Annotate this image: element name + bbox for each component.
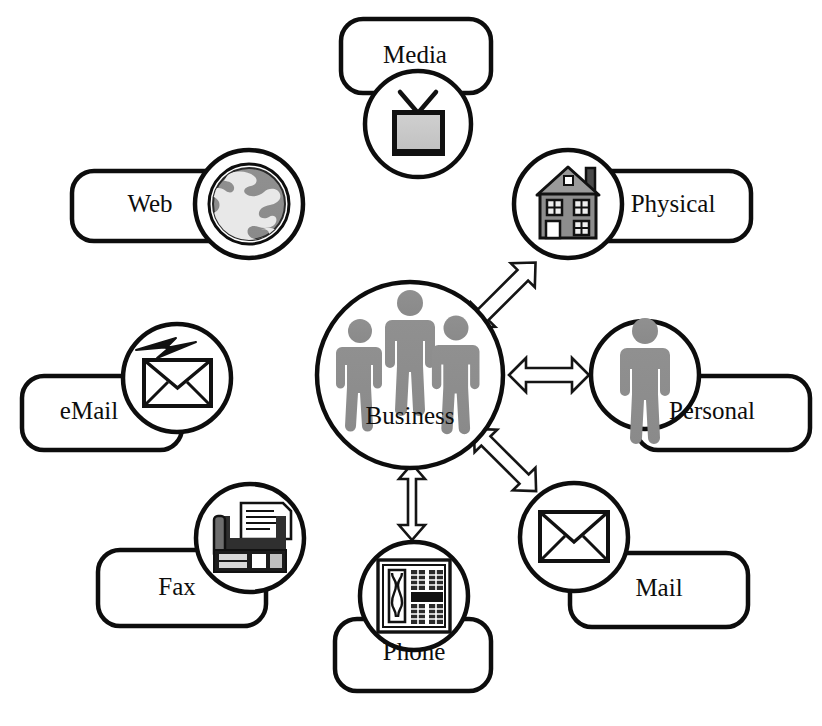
- node-fax[interactable]: Fax: [158, 484, 304, 600]
- node-business[interactable]: Business: [317, 282, 503, 468]
- connector-business-phone: [399, 464, 425, 540]
- double-arrow-glyph: [399, 464, 425, 540]
- node-label-mail: Mail: [635, 574, 682, 601]
- node-label-email: eMail: [60, 397, 118, 424]
- double-arrow-glyph: [509, 358, 589, 392]
- node-label-personal: Personal: [669, 397, 755, 424]
- node-mail[interactable]: Mail: [520, 483, 683, 601]
- envelope-icon: [540, 512, 608, 561]
- communication-channels-diagram: Business Media: [0, 0, 822, 726]
- node-label-business: Business: [366, 402, 455, 429]
- diagram-canvas: Business Media: [0, 0, 822, 726]
- node-web[interactable]: Web: [127, 150, 303, 272]
- node-label-media: Media: [383, 41, 447, 68]
- desk-phone-icon: [378, 560, 450, 632]
- node-label-phone: Phone: [383, 638, 446, 665]
- node-label-fax: Fax: [158, 573, 196, 600]
- node-label-physical: Physical: [631, 190, 716, 217]
- node-label-web: Web: [127, 190, 172, 217]
- connector-business-personal: [509, 358, 589, 392]
